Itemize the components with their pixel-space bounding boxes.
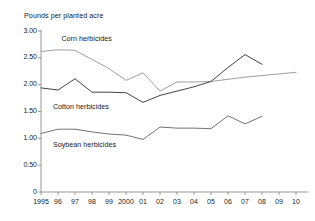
series-label: Corn herbicides [61, 34, 111, 43]
y-tick-label: 0.50 [13, 161, 37, 168]
series-line-soybean-herbicides [41, 116, 262, 140]
y-tick-label: 1.00 [13, 134, 37, 141]
plot-area [0, 0, 315, 221]
series-line-corn-herbicides [41, 50, 296, 91]
series-label: Cotton herbicides [53, 102, 109, 111]
y-tick-label: 2.00 [13, 80, 37, 87]
x-tick-label: 10 [282, 198, 310, 205]
y-tick-label: 0 [13, 188, 37, 195]
y-tick-label: 3.00 [13, 27, 37, 34]
chart-container: Pounds per planted acre 00.501.001.502.0… [0, 0, 315, 221]
y-tick-label: 1.50 [13, 107, 37, 114]
series-line-cotton-herbicides [41, 55, 262, 103]
series-label: Soybean herbicides [53, 140, 116, 149]
y-tick-label: 2.50 [13, 53, 37, 60]
